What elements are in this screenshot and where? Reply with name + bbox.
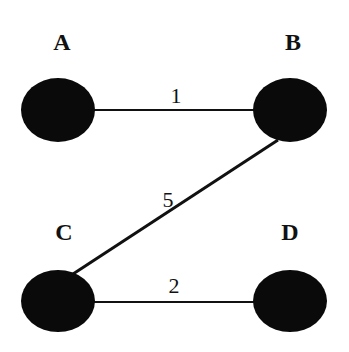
node-d (253, 270, 327, 332)
node-a (21, 78, 95, 142)
node-label-d: D (281, 219, 298, 245)
edge-weight-b-c: 5 (163, 187, 174, 212)
node-label-c: C (55, 219, 72, 245)
edge-weight-c-d: 2 (169, 273, 180, 298)
node-c (21, 270, 95, 332)
edge-b-c (73, 140, 278, 274)
node-label-b: B (285, 29, 301, 55)
node-b (253, 78, 327, 142)
node-label-a: A (53, 29, 71, 55)
edge-weight-a-b: 1 (171, 83, 182, 108)
weighted-graph-diagram: 1 5 2 A B C D (0, 0, 349, 352)
